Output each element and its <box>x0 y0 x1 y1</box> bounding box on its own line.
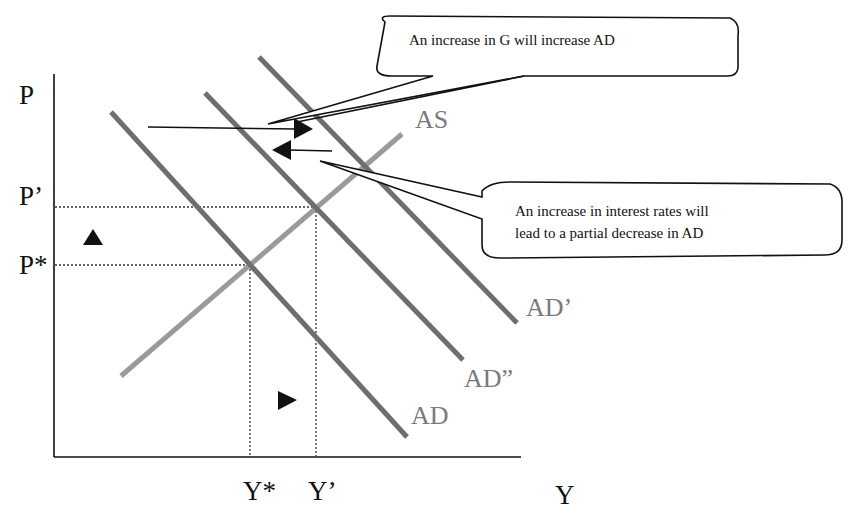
p-prime-label: P’ <box>19 181 43 211</box>
ad-double-prime-label: AD” <box>464 364 513 393</box>
output-axis-label: Y <box>555 480 575 510</box>
left-arrowhead-icon <box>272 140 291 160</box>
y-star-label: Y* <box>243 476 276 506</box>
p-star-label: P* <box>19 250 48 280</box>
right-triangle-icon <box>278 391 297 410</box>
ad-prime-label: AD’ <box>526 293 572 322</box>
g-increase-callout-text: An increase in G will increase AD <box>409 32 615 48</box>
g-shift-arrow-shaft <box>148 127 296 129</box>
price-axis-label: P <box>19 80 34 110</box>
as-label: AS <box>415 105 448 134</box>
ad-as-diagram: An increase in G will increase AD An inc… <box>0 0 858 517</box>
ad-label: AD <box>411 401 449 430</box>
y-prime-label: Y’ <box>308 476 337 506</box>
interest-shift-arrow-shaft <box>290 150 332 151</box>
up-triangle-icon <box>83 229 103 245</box>
